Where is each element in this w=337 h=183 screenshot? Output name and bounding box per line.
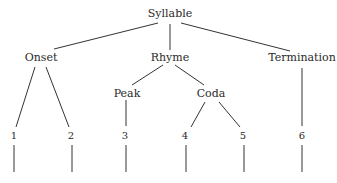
edge-rhyme-coda: [175, 65, 204, 85]
edge-coda-5: [219, 102, 240, 127]
node-onset: Onset: [25, 52, 58, 64]
node-coda: Coda: [197, 88, 226, 100]
leaf-6: 6: [299, 130, 305, 142]
edge-onset-2: [46, 67, 69, 127]
edge-syllable-onset: [54, 23, 158, 49]
node-syllable: Syllable: [148, 8, 192, 20]
tree-edges: [0, 0, 337, 183]
syllable-tree-diagram: Syllable Onset Rhyme Termination Peak Co…: [0, 0, 337, 183]
leaf-2: 2: [68, 130, 74, 142]
node-termination: Termination: [268, 52, 336, 64]
leaf-5: 5: [240, 130, 246, 142]
leaf-1: 1: [11, 130, 17, 142]
leaf-4: 4: [182, 130, 188, 142]
leaf-3: 3: [122, 130, 128, 142]
edge-onset-1: [16, 67, 35, 127]
edge-rhyme-peak: [132, 65, 163, 85]
edge-coda-4: [191, 102, 205, 127]
node-rhyme: Rhyme: [151, 52, 190, 64]
edge-syllable-termination: [181, 23, 290, 51]
node-peak: Peak: [114, 88, 141, 100]
